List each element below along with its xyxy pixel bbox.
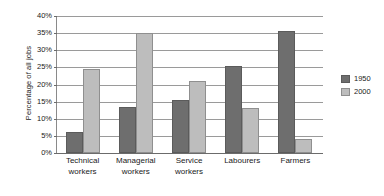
- bar: [136, 33, 153, 153]
- bar: [189, 81, 206, 153]
- bar: [83, 69, 100, 153]
- bar-group: [225, 16, 259, 153]
- legend-item-label: 2000: [354, 87, 371, 96]
- bars-layer: [56, 16, 322, 153]
- y-axis-tick-label: 15%: [37, 98, 52, 106]
- legend-item[interactable]: 2000: [341, 86, 384, 97]
- y-axis-tick-label: 30%: [37, 46, 52, 54]
- bar-group: [278, 16, 312, 153]
- x-axis-category-label-line: workers: [156, 167, 222, 178]
- bar: [119, 107, 136, 153]
- x-axis-category-label: Farmers: [262, 156, 328, 167]
- y-axis-tick-label: 35%: [37, 29, 52, 37]
- y-axis-tick-label: 20%: [37, 81, 52, 89]
- bar: [66, 132, 83, 153]
- y-axis-tick-mark: [54, 153, 57, 154]
- bar: [225, 66, 242, 153]
- bar: [242, 108, 259, 153]
- bar-chart: Percentage of all jobs 40%35%30%25%20%15…: [0, 0, 384, 196]
- x-axis-line: [57, 153, 323, 154]
- x-axis-category-labels: TechnicalworkersManagerialworkersService…: [56, 156, 322, 190]
- legend-swatch-2000: [341, 88, 350, 96]
- y-axis-tick-labels: 40%35%30%25%20%15%10%5%0%: [26, 16, 54, 153]
- bar-group: [172, 16, 206, 153]
- y-axis-tick-label: 5%: [41, 132, 52, 140]
- legend-item-label: 1950: [354, 74, 371, 83]
- y-axis-tick-label: 40%: [37, 12, 52, 20]
- chart-legend: 19502000: [341, 73, 384, 99]
- bar: [172, 100, 189, 153]
- bar: [278, 31, 295, 153]
- bar-group: [119, 16, 153, 153]
- bar: [295, 139, 312, 153]
- y-axis-tick-label: 10%: [37, 115, 52, 123]
- legend-swatch-1950: [341, 75, 350, 83]
- legend-item[interactable]: 1950: [341, 73, 384, 84]
- x-axis-category-label-line: Farmers: [262, 156, 328, 167]
- y-axis-tick-label: 25%: [37, 63, 52, 71]
- bar-group: [66, 16, 100, 153]
